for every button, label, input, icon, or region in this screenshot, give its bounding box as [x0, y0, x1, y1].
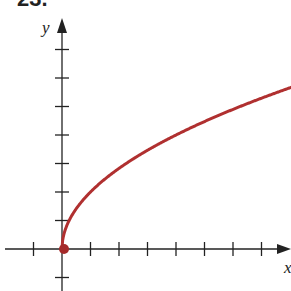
- graph: x y: [0, 0, 291, 291]
- axis-ticks: [34, 50, 262, 278]
- y-axis-label: y: [40, 18, 50, 37]
- x-axis-arrow-icon: [277, 244, 291, 254]
- y-axis-arrow-icon: [57, 18, 67, 33]
- sqrt-curve: [62, 86, 291, 249]
- start-point-marker: [59, 244, 69, 254]
- x-axis-label: x: [283, 258, 291, 277]
